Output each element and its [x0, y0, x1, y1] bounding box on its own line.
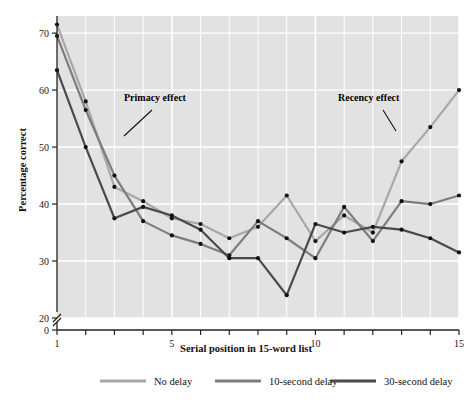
data-point — [313, 256, 317, 260]
legend-label: 10-second delay — [269, 376, 338, 387]
y-tick-label: 20 — [39, 313, 49, 324]
y-tick-label: 60 — [39, 85, 49, 96]
y-tick-label: 30 — [39, 256, 49, 267]
data-point — [170, 213, 174, 217]
legend-item-10-second-delay: 10-second delay — [215, 376, 338, 387]
data-point — [227, 256, 231, 260]
data-point — [170, 233, 174, 237]
x-tick-label: 5 — [169, 338, 174, 349]
data-point — [428, 236, 432, 240]
data-point — [256, 256, 260, 260]
data-point — [112, 216, 116, 220]
data-point — [198, 222, 202, 226]
y-tick-label: 70 — [39, 28, 49, 39]
data-point — [256, 225, 260, 229]
data-point — [457, 88, 461, 92]
data-point — [313, 222, 317, 226]
data-point — [342, 205, 346, 209]
data-point — [141, 219, 145, 223]
annotation-label: Recency effect — [338, 92, 400, 103]
data-point — [256, 219, 260, 223]
legend-label: No delay — [154, 376, 193, 387]
data-point — [141, 199, 145, 203]
data-point — [112, 173, 116, 177]
data-point — [227, 236, 231, 240]
legend-group: No delay10-second delay30-second delay — [100, 376, 453, 387]
data-point — [285, 193, 289, 197]
serial-position-chart-figure: 0203040506070151015 Primacy effectRecenc… — [0, 0, 474, 401]
data-point — [285, 293, 289, 297]
y-tick-label: 40 — [39, 199, 49, 210]
data-point — [84, 145, 88, 149]
data-point — [342, 230, 346, 234]
y-axis-title: Percentage correct — [17, 128, 28, 212]
annotation-label: Primacy effect — [124, 92, 187, 103]
data-point — [399, 159, 403, 163]
data-point — [84, 108, 88, 112]
data-point — [198, 228, 202, 232]
y-tick-label: 0 — [44, 325, 49, 336]
y-tick-label: 50 — [39, 142, 49, 153]
data-point — [313, 239, 317, 243]
data-point — [457, 193, 461, 197]
x-tick-label: 1 — [55, 338, 60, 349]
data-point — [457, 250, 461, 254]
data-point — [112, 185, 116, 189]
data-point — [84, 99, 88, 103]
data-point — [371, 225, 375, 229]
data-point — [342, 213, 346, 217]
data-point — [198, 242, 202, 246]
data-point — [141, 205, 145, 209]
data-point — [428, 125, 432, 129]
legend-label: 30-second delay — [384, 376, 453, 387]
data-point — [428, 202, 432, 206]
legend-item-no-delay: No delay — [100, 376, 193, 387]
chart-canvas: 0203040506070151015 Primacy effectRecenc… — [0, 0, 474, 401]
x-tick-label: 15 — [454, 338, 464, 349]
legend-item-30-second-delay: 30-second delay — [330, 376, 453, 387]
x-axis-title: Serial position in 15-word list — [180, 343, 312, 354]
data-point — [371, 239, 375, 243]
data-point — [399, 199, 403, 203]
data-point — [399, 228, 403, 232]
data-point — [285, 236, 289, 240]
data-point — [371, 230, 375, 234]
